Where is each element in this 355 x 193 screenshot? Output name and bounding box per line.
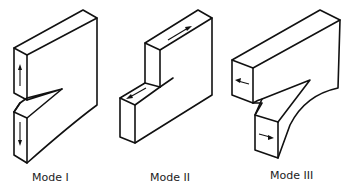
mode-3-specimen bbox=[232, 10, 340, 158]
mode-3-label: Mode III bbox=[270, 169, 313, 182]
mode-2-specimen bbox=[120, 10, 212, 143]
mode-2-label: Mode II bbox=[150, 171, 190, 184]
fracture-modes-diagram: Mode I Mode II Mode III bbox=[0, 0, 355, 193]
mode-1-label: Mode I bbox=[32, 171, 69, 184]
fracture-modes-drawing bbox=[0, 0, 355, 193]
mode-1-specimen bbox=[14, 10, 97, 163]
